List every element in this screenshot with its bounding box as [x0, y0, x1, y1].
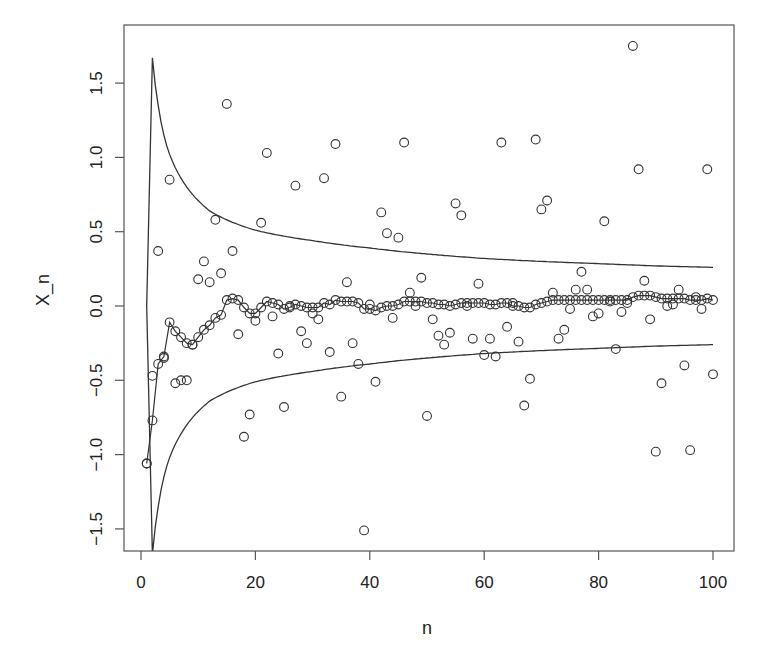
data-point: [474, 279, 483, 288]
data-point: [228, 247, 237, 256]
y-tick-label: 0.5: [87, 220, 106, 244]
data-point: [274, 349, 283, 358]
data-point: [405, 288, 414, 297]
data-point: [291, 181, 300, 190]
data-point: [514, 337, 523, 346]
data-point: [674, 285, 683, 294]
data-point: [451, 199, 460, 208]
data-point: [646, 315, 655, 324]
data-point: [686, 446, 695, 455]
data-point: [531, 135, 540, 144]
data-point: [154, 247, 163, 256]
data-point: [457, 211, 466, 220]
x-axis: 020406080100: [136, 551, 727, 592]
data-point: [543, 196, 552, 205]
running-mean-line: [147, 296, 713, 464]
data-point: [520, 401, 529, 410]
data-point: [383, 229, 392, 238]
data-point: [480, 351, 489, 360]
data-point: [262, 149, 271, 158]
data-point: [200, 257, 209, 266]
data-point: [651, 447, 660, 456]
y-axis-label: X_n: [33, 274, 54, 306]
data-point: [268, 312, 277, 321]
data-point: [211, 215, 220, 224]
x-tick-label: 20: [246, 573, 265, 592]
lower-envelope-line: [147, 306, 713, 554]
data-point: [583, 285, 592, 294]
x-tick-label: 100: [699, 573, 727, 592]
data-point: [302, 339, 311, 348]
data-point: [234, 330, 243, 339]
data-point: [388, 313, 397, 322]
data-point: [417, 273, 426, 282]
data-point: [337, 392, 346, 401]
x-tick-label: 40: [360, 573, 379, 592]
upper-envelope-line: [147, 58, 713, 306]
data-point: [445, 328, 454, 337]
data-point: [503, 322, 512, 331]
data-point: [371, 377, 380, 386]
data-point: [377, 208, 386, 217]
data-point: [394, 233, 403, 242]
running-mean-series: [142, 291, 717, 468]
data-point: [617, 308, 626, 317]
y-tick-label: −1.5: [87, 512, 106, 546]
data-point: [217, 269, 226, 278]
data-point: [537, 205, 546, 214]
data-point: [634, 165, 643, 174]
data-point: [325, 348, 334, 357]
data-point: [629, 42, 638, 51]
y-tick-label: −0.5: [87, 364, 106, 398]
data-point: [428, 315, 437, 324]
data-point: [257, 218, 266, 227]
data-point: [343, 278, 352, 287]
x-tick-label: 80: [589, 573, 608, 592]
data-point: [577, 267, 586, 276]
data-point: [240, 432, 249, 441]
data-point: [165, 175, 174, 184]
x-tick-label: 60: [475, 573, 494, 592]
data-point: [657, 379, 666, 388]
data-point: [497, 138, 506, 147]
chart-canvas: 020406080100 −1.5−1.0−0.50.00.51.01.5 n …: [0, 0, 767, 651]
data-point: [348, 339, 357, 348]
y-axis: −1.5−1.0−0.50.00.51.01.5: [87, 71, 124, 545]
data-point: [314, 315, 323, 324]
plot-frame: [124, 25, 734, 551]
y-tick-label: 1.0: [87, 146, 106, 170]
data-point: [669, 300, 678, 309]
x-axis-label: n: [422, 618, 432, 638]
xn-points-series: [142, 42, 717, 535]
data-point: [245, 410, 254, 419]
y-tick-label: 0.0: [87, 294, 106, 318]
data-point: [194, 275, 203, 284]
data-point: [434, 331, 443, 340]
data-point: [566, 305, 575, 314]
data-point: [486, 334, 495, 343]
data-point: [205, 278, 214, 287]
data-point: [331, 140, 340, 149]
data-point: [611, 345, 620, 354]
x-tick-label: 0: [136, 573, 145, 592]
data-point: [697, 305, 706, 314]
data-point: [222, 100, 231, 109]
data-point: [182, 376, 191, 385]
data-point: [280, 403, 289, 412]
data-point: [297, 327, 306, 336]
data-point: [468, 334, 477, 343]
data-point: [680, 361, 689, 370]
y-tick-label: −1.0: [87, 438, 106, 472]
data-point: [640, 276, 649, 285]
data-point: [360, 526, 369, 535]
data-point: [148, 371, 157, 380]
data-point: [320, 174, 329, 183]
data-point: [354, 360, 363, 369]
data-point: [423, 412, 432, 421]
data-point: [400, 138, 409, 147]
data-point: [709, 370, 718, 379]
data-point: [600, 217, 609, 226]
data-point: [571, 285, 580, 294]
data-point: [440, 340, 449, 349]
data-point: [703, 165, 712, 174]
